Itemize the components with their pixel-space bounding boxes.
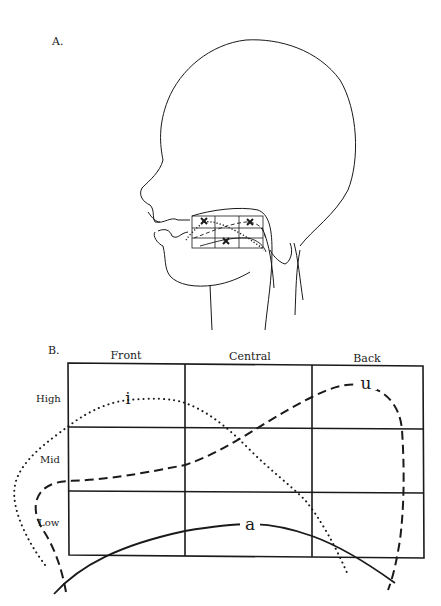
row-label-high: High: [36, 393, 61, 404]
vowel-label-u: u: [361, 373, 372, 393]
x-marker-icon: [201, 218, 207, 224]
vowel-label-a: a: [245, 514, 255, 534]
vowel-a-curve: [54, 524, 395, 594]
x-marker-icon: [247, 219, 253, 225]
head-profile: [141, 40, 356, 330]
tongue-u-curve: [194, 222, 266, 240]
column-label-central: Central: [229, 350, 271, 363]
panel-b-label: B.: [48, 344, 60, 357]
row-label-mid: Mid: [40, 454, 60, 465]
tongue-shapes: [186, 222, 266, 252]
x-marker-icon: [223, 238, 229, 244]
tongue-i-curve: [186, 222, 264, 250]
vowel-i-curve: [14, 399, 348, 575]
vowel-u-curve: [36, 385, 404, 592]
vowel-label-i: i: [125, 388, 131, 408]
column-label-front: Front: [110, 349, 142, 362]
panel-a-label: A.: [51, 35, 63, 48]
tongue-a-curve: [200, 238, 266, 252]
vowel-diagram: A. B. Front Cent: [0, 0, 441, 606]
column-label-back: Back: [353, 352, 381, 365]
